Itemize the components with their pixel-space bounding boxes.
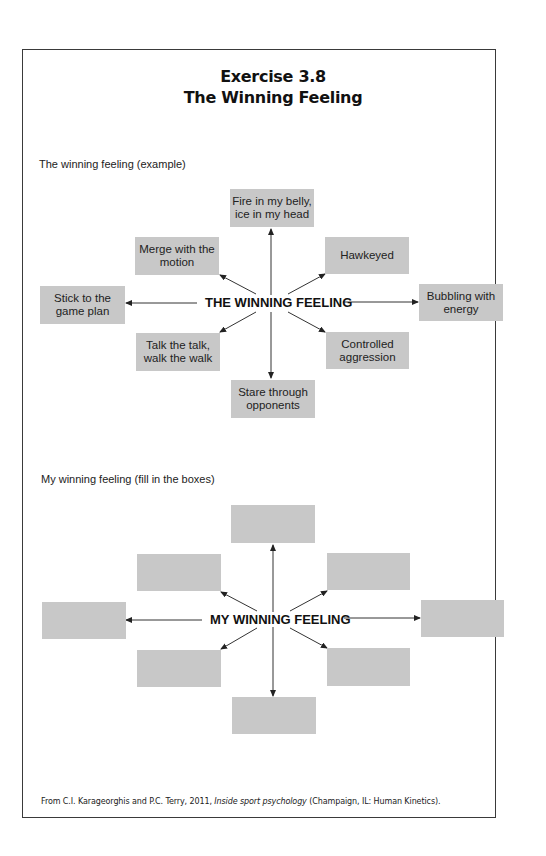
citation-book-title: Inside sport psychology [214,797,306,806]
mine-box-lower-left[interactable] [137,650,221,687]
citation-prefix: From C.I. Karageorghis and P.C. Terry, 2… [41,797,214,806]
example-box-upper-left: Merge with the motion [135,237,219,275]
mine-box-left[interactable] [42,602,126,639]
mine-center-label: MY WINNING FEELING [210,612,351,627]
mine-box-upper-right[interactable] [327,553,410,590]
example-box-bottom: Stare through opponents [231,380,315,418]
example-box-left: Stick to the game plan [40,286,125,324]
example-box-upper-right: Hawkeyed [325,237,409,274]
citation: From C.I. Karageorghis and P.C. Terry, 2… [41,797,440,806]
mine-box-right[interactable] [421,600,504,637]
mine-section-label: My winning feeling (fill in the boxes) [41,473,215,485]
citation-suffix: (Champaign, IL: Human Kinetics). [307,797,441,806]
example-box-right: Bubbling with energy [419,284,503,321]
mine-box-top[interactable] [231,505,315,543]
example-box-top: Fire in my belly, ice in my head [230,189,314,227]
example-center-label: THE WINNING FEELING [205,295,352,310]
example-box-lower-right: Controlled aggression [326,332,409,369]
mine-box-lower-right[interactable] [327,648,410,686]
mine-box-upper-left[interactable] [137,554,221,591]
example-box-lower-left: Talk the talk, walk the walk [136,333,220,371]
mine-box-bottom[interactable] [232,697,316,734]
